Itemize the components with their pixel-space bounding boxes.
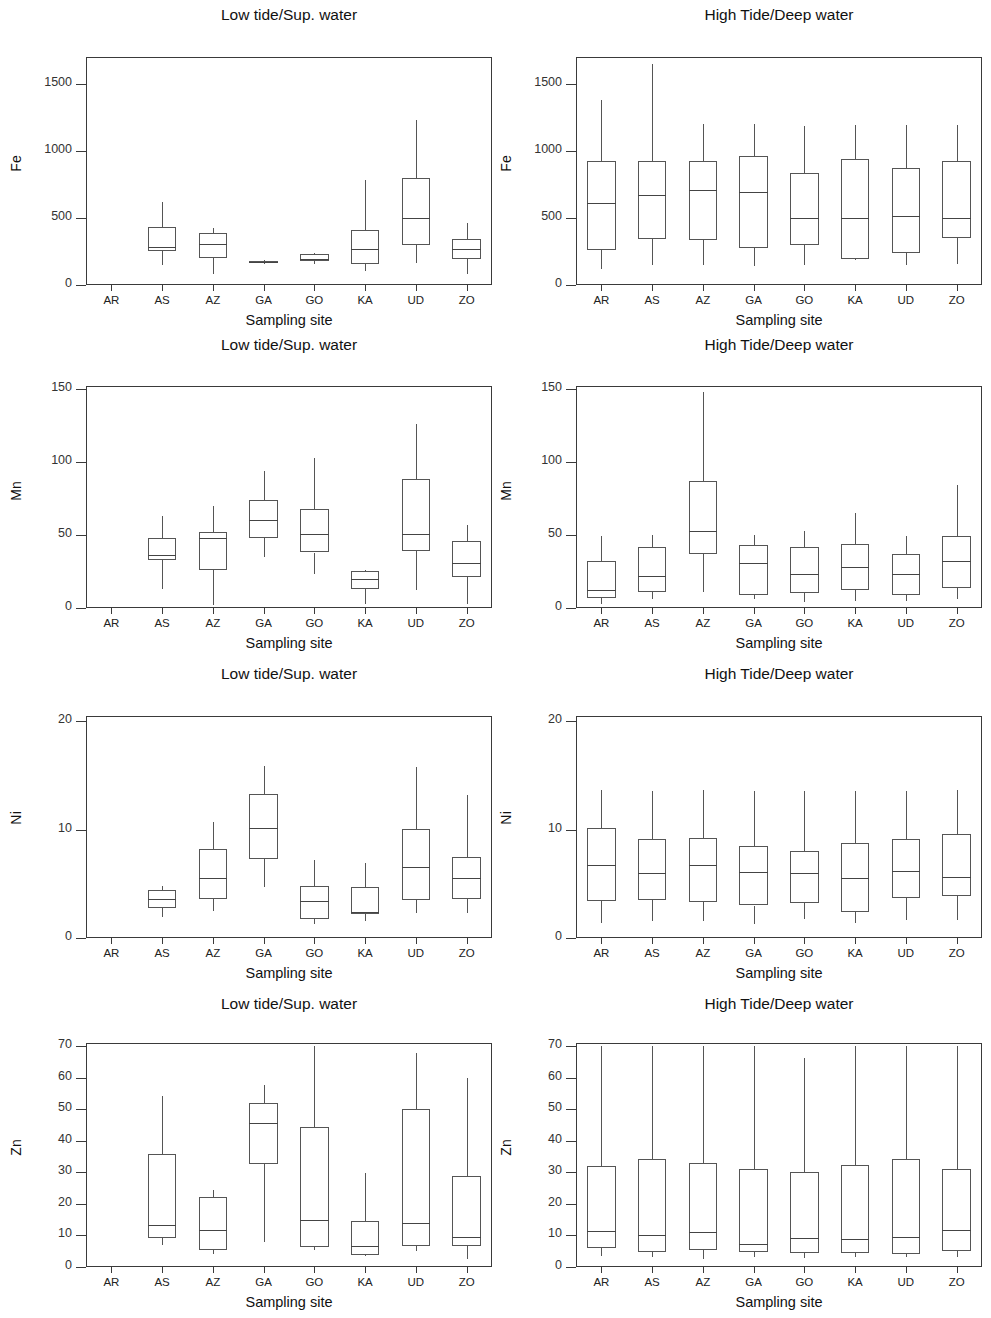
x-tick-label-zo: ZO xyxy=(437,617,497,629)
box-iqr xyxy=(790,1172,818,1253)
y-tick-mark xyxy=(76,1235,86,1236)
box-iqr xyxy=(739,846,767,906)
whisker-lower xyxy=(264,538,265,557)
y-tick-label: 0 xyxy=(20,276,72,290)
x-tick-label-ud: UD xyxy=(876,617,936,629)
whisker-upper xyxy=(652,535,653,547)
x-tick-mark xyxy=(754,938,755,944)
whisker-lower xyxy=(957,1251,958,1257)
median-line xyxy=(199,878,227,879)
median-line xyxy=(638,873,666,874)
x-tick-label-ar: AR xyxy=(571,294,631,306)
whisker-upper xyxy=(652,1046,653,1159)
x-tick-label-go: GO xyxy=(774,1276,834,1288)
whisker-upper xyxy=(162,1096,163,1154)
whisker-lower xyxy=(855,590,856,600)
whisker-upper xyxy=(754,791,755,846)
x-tick-label-as: AS xyxy=(132,1276,192,1288)
whisker-upper xyxy=(957,125,958,161)
x-tick-label-ka: KA xyxy=(335,617,395,629)
x-tick-mark xyxy=(416,285,417,291)
whisker-upper xyxy=(213,228,214,234)
x-tick-mark xyxy=(213,938,214,944)
x-tick-label-as: AS xyxy=(132,617,192,629)
box-iqr xyxy=(199,233,227,258)
y-tick-label: 100 xyxy=(510,453,562,467)
whisker-lower xyxy=(162,251,163,265)
box-iqr xyxy=(841,159,869,259)
x-tick-label-az: AZ xyxy=(673,617,733,629)
whisker-upper xyxy=(365,1173,366,1221)
y-tick-mark xyxy=(566,1046,576,1047)
median-line xyxy=(790,218,818,219)
x-tick-label-ka: KA xyxy=(825,617,885,629)
y-tick-label: 30 xyxy=(20,1163,72,1177)
median-line xyxy=(402,867,430,868)
boxplot-figure: Low tide/Sup. water050010001500FeARASAZG… xyxy=(0,0,991,1318)
x-tick-mark xyxy=(906,608,907,614)
box-iqr xyxy=(148,890,176,907)
whisker-lower xyxy=(754,595,755,599)
y-tick-label: 1500 xyxy=(20,75,72,89)
y-tick-mark xyxy=(566,1109,576,1110)
x-tick-mark xyxy=(703,1267,704,1273)
whisker-lower xyxy=(365,264,366,271)
median-line xyxy=(942,877,970,878)
y-tick-mark xyxy=(76,84,86,85)
whisker-lower xyxy=(365,914,366,920)
median-line xyxy=(587,203,615,204)
median-line xyxy=(689,531,717,532)
x-tick-label-ka: KA xyxy=(825,947,885,959)
box-iqr xyxy=(942,536,970,587)
y-tick-mark xyxy=(76,1109,86,1110)
median-line xyxy=(841,1239,869,1240)
median-line xyxy=(841,878,869,879)
y-tick-label: 30 xyxy=(510,1163,562,1177)
x-tick-mark xyxy=(162,285,163,291)
median-line xyxy=(689,865,717,866)
y-tick-mark xyxy=(566,721,576,722)
box-iqr xyxy=(148,227,176,252)
whisker-lower xyxy=(314,1247,315,1250)
y-tick-label: 1000 xyxy=(20,142,72,156)
y-tick-label: 20 xyxy=(20,712,72,726)
median-line xyxy=(402,1223,430,1224)
x-tick-label-ud: UD xyxy=(386,1276,446,1288)
x-tick-label-ud: UD xyxy=(876,947,936,959)
median-line xyxy=(249,1123,277,1124)
y-tick-label: 70 xyxy=(510,1037,562,1051)
y-tick-label: 0 xyxy=(510,276,562,290)
box-iqr xyxy=(402,178,430,245)
x-tick-label-ga: GA xyxy=(234,947,294,959)
panel-title: Low tide/Sup. water xyxy=(0,665,578,683)
y-axis-title: Mn xyxy=(8,481,24,501)
whisker-lower xyxy=(213,899,214,911)
whisker-upper xyxy=(601,1046,602,1166)
plot-area xyxy=(576,1043,982,1267)
whisker-upper xyxy=(162,886,163,890)
box-iqr xyxy=(739,1169,767,1252)
plot-area xyxy=(86,716,492,938)
whisker-lower xyxy=(957,896,958,920)
y-tick-mark xyxy=(566,1267,576,1268)
whisker-upper xyxy=(703,790,704,839)
whisker-upper xyxy=(213,506,214,532)
whisker-upper xyxy=(467,795,468,857)
x-tick-label-go: GO xyxy=(284,947,344,959)
whisker-upper xyxy=(264,766,265,794)
box-iqr xyxy=(300,1127,328,1247)
box-iqr xyxy=(638,161,666,239)
x-tick-label-ga: GA xyxy=(234,1276,294,1288)
median-line xyxy=(689,1232,717,1233)
box-iqr xyxy=(351,230,379,264)
x-tick-label-ga: GA xyxy=(724,294,784,306)
whisker-upper xyxy=(467,1078,468,1176)
whisker-lower xyxy=(416,1246,417,1251)
box-iqr xyxy=(739,156,767,248)
median-line xyxy=(402,218,430,219)
box-iqr xyxy=(199,532,227,570)
x-tick-label-az: AZ xyxy=(183,1276,243,1288)
whisker-lower xyxy=(467,899,468,913)
whisker-upper xyxy=(365,180,366,230)
y-tick-label: 50 xyxy=(510,1100,562,1114)
